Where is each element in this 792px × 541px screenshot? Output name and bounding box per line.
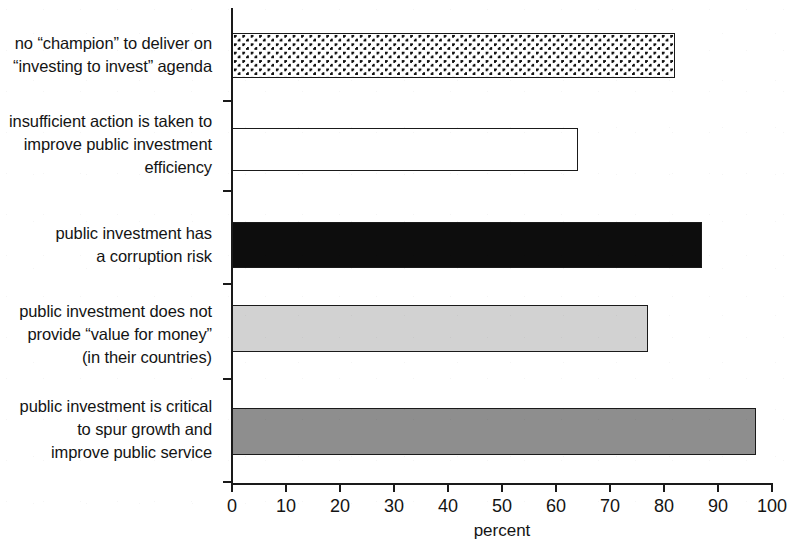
x-axis-tick-label-50: 50 — [492, 495, 512, 517]
x-axis-tick-40 — [447, 483, 449, 492]
category-label-0: no “champion” to deliver on “investing t… — [0, 32, 212, 78]
x-axis-tick-label-20: 20 — [330, 495, 350, 517]
x-axis-tick-label-0: 0 — [227, 495, 237, 517]
x-axis-tick-label-10: 10 — [276, 495, 296, 517]
x-axis-tick-100 — [771, 483, 773, 492]
x-axis-tick-70 — [609, 483, 611, 492]
x-axis-tick-label-60: 60 — [546, 495, 566, 517]
bar-0 — [232, 33, 675, 78]
x-axis-tick-20 — [339, 483, 341, 492]
x-axis-tick-90 — [717, 483, 719, 492]
plot-area: 0 10 20 30 40 50 60 70 80 90 100 percent — [232, 8, 772, 483]
y-axis-tick-2 — [223, 283, 232, 285]
x-axis-tick-label-100: 100 — [757, 495, 787, 517]
x-axis-title: percent — [232, 521, 772, 541]
y-axis-tick-1 — [223, 190, 232, 192]
category-label-1: insufficient action is taken to improve … — [0, 110, 212, 179]
x-axis-tick-30 — [393, 483, 395, 492]
x-axis-tick-10 — [285, 483, 287, 492]
bar-1 — [232, 128, 578, 171]
y-axis-tick-3 — [223, 378, 232, 380]
x-axis-tick-label-40: 40 — [438, 495, 458, 517]
bar-2 — [232, 222, 702, 268]
x-axis-tick-60 — [555, 483, 557, 492]
category-label-2: public investment has a corruption risk — [0, 222, 212, 268]
bar-4 — [232, 408, 756, 455]
x-axis-tick-80 — [663, 483, 665, 492]
y-axis-tick-0 — [223, 100, 232, 102]
bar-3 — [232, 305, 648, 352]
category-label-4: public investment is critical to spur gr… — [0, 395, 212, 464]
x-axis-tick-label-90: 90 — [708, 495, 728, 517]
x-axis-tick-label-80: 80 — [654, 495, 674, 517]
category-label-column: no “champion” to deliver on “investing t… — [0, 0, 222, 483]
category-label-3: public investment does not provide “valu… — [0, 300, 212, 369]
x-axis-tick-0 — [231, 483, 233, 492]
x-axis-tick-50 — [501, 483, 503, 492]
x-axis-tick-label-70: 70 — [600, 495, 620, 517]
x-axis-tick-label-30: 30 — [384, 495, 404, 517]
